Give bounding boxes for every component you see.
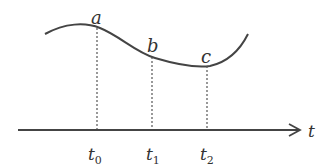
point-label-a: a	[91, 7, 102, 28]
time-label-t1: t1	[146, 144, 160, 167]
axis-label: t	[308, 121, 315, 141]
point-label-c: c	[201, 46, 211, 67]
time-label-t0: t0	[88, 144, 102, 167]
time-label-t2: t2	[200, 144, 214, 167]
point-label-b: b	[147, 35, 159, 56]
motion-diagram: t a b c t0 t1 t2	[0, 0, 328, 168]
